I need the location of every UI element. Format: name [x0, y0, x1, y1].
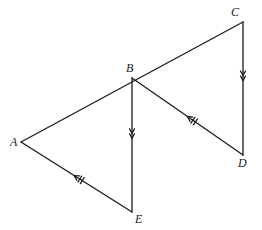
vertex-label-E: E — [135, 213, 142, 225]
markers-layer — [74, 71, 245, 184]
segment-EA — [21, 142, 132, 212]
geometry-figure: A B C D E — [0, 0, 262, 230]
vertex-label-A: A — [10, 136, 17, 148]
segments-layer — [21, 22, 243, 212]
geometry-canvas — [0, 0, 262, 230]
vertex-label-B: B — [126, 62, 133, 74]
vertex-label-C: C — [231, 6, 239, 18]
vertex-label-D: D — [238, 157, 247, 169]
